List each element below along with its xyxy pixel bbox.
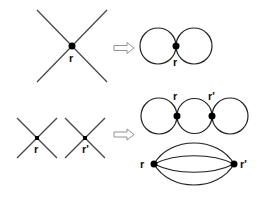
- open-right-arrow-icon: [114, 129, 134, 140]
- vertex-label: r: [173, 90, 178, 102]
- vertex-label: r: [69, 52, 74, 64]
- four-point-vertex-r: r: [17, 118, 57, 158]
- vertex-dot: [173, 43, 180, 50]
- four-point-vertex-r-prime: r': [65, 118, 105, 158]
- figure-eight-diagram: r: [140, 28, 212, 68]
- vertex-dot: [69, 43, 76, 50]
- open-right-arrow-icon: [114, 43, 134, 54]
- loop-middle: [177, 99, 212, 134]
- vertex-dot-r-prime: [209, 113, 216, 120]
- loop-right: [176, 28, 212, 64]
- loop-left: [141, 98, 177, 134]
- propagator-inner-top: [154, 156, 234, 164]
- vertex-dot-r-prime: [231, 161, 238, 168]
- loop-left: [140, 28, 176, 64]
- three-loop-chain-diagram: r r': [141, 90, 248, 134]
- vertex-label: r': [208, 90, 215, 102]
- vertex-dot-r: [174, 113, 181, 120]
- vertex-label: r: [140, 158, 145, 170]
- vertex-dot-r: [151, 161, 158, 168]
- sunset-diagram: r r': [140, 143, 247, 185]
- vertex-label: r: [34, 143, 39, 155]
- vertex-label: r': [240, 158, 247, 170]
- vertex-label: r: [173, 56, 178, 68]
- feynman-diagram: r r r r' r r': [0, 0, 263, 199]
- propagator-inner-bottom: [154, 164, 234, 172]
- vertex-dot: [83, 136, 87, 140]
- vertex-label: r': [82, 143, 89, 155]
- vertex-dot: [35, 136, 39, 140]
- loop-right: [212, 98, 248, 134]
- four-point-vertex-r: r: [37, 10, 107, 82]
- propagator-outer-top: [154, 143, 234, 164]
- propagator-outer-bottom: [154, 164, 234, 185]
